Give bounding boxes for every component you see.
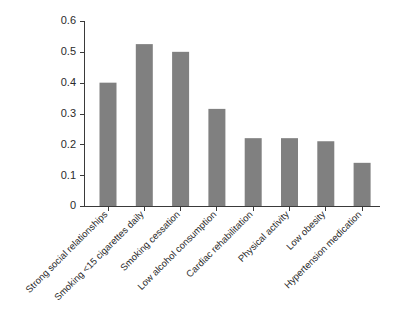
bar xyxy=(208,109,225,206)
bar xyxy=(172,52,189,206)
bar xyxy=(136,44,153,206)
bar xyxy=(354,163,371,206)
bar xyxy=(317,141,334,206)
y-tick-label: 0.6 xyxy=(61,14,76,26)
chart-canvas: 00.10.20.30.40.50.6 Strong social relati… xyxy=(0,0,401,326)
y-tick-label: 0 xyxy=(70,199,76,211)
y-tick-label: 0.3 xyxy=(61,107,76,119)
y-tick-label: 0.2 xyxy=(61,138,76,150)
y-tick-label: 0.4 xyxy=(61,76,76,88)
bar xyxy=(100,83,117,206)
bar-chart-figure: 00.10.20.30.40.50.6 Strong social relati… xyxy=(0,0,401,326)
bar xyxy=(281,138,298,206)
y-tick-label: 0.1 xyxy=(61,169,76,181)
bar xyxy=(245,138,262,206)
y-tick-label: 0.5 xyxy=(61,45,76,57)
